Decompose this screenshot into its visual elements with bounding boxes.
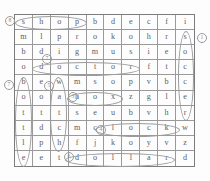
- grid-cell[interactable]: r: [69, 30, 87, 45]
- word-marker-badge: 6: [64, 152, 74, 162]
- grid-cell[interactable]: t: [15, 106, 33, 121]
- grid-cell[interactable]: t: [33, 106, 51, 121]
- grid-cell[interactable]: o: [15, 60, 33, 75]
- word-marker-badge: 8: [5, 16, 15, 26]
- word-search-grid[interactable]: shopbdecfimlprokohrsbdigmusieoodoctorftc…: [14, 14, 195, 167]
- grid-cell[interactable]: m: [15, 30, 33, 45]
- grid-cell[interactable]: x: [104, 91, 122, 106]
- grid-cell[interactable]: m: [87, 45, 105, 60]
- grid-cell[interactable]: b: [15, 75, 33, 90]
- grid-cell[interactable]: c: [176, 75, 194, 90]
- grid-cell[interactable]: l: [104, 121, 122, 136]
- grid-cell[interactable]: u: [104, 106, 122, 121]
- grid-cell[interactable]: e: [122, 15, 140, 30]
- grid-cell[interactable]: i: [51, 45, 69, 60]
- grid-cell[interactable]: s: [176, 30, 194, 45]
- grid-cell[interactable]: a: [51, 91, 69, 106]
- grid-cell[interactable]: c: [140, 121, 158, 136]
- grid-cell[interactable]: i: [140, 45, 158, 60]
- grid-cell[interactable]: g: [69, 45, 87, 60]
- grid-cell[interactable]: o: [104, 75, 122, 90]
- grid-cell[interactable]: v: [158, 136, 176, 151]
- grid-cell[interactable]: y: [140, 136, 158, 151]
- grid-cell[interactable]: p: [33, 136, 51, 151]
- grid-cell[interactable]: j: [87, 136, 105, 151]
- grid-cell[interactable]: v: [140, 75, 158, 90]
- grid-cell[interactable]: o: [33, 91, 51, 106]
- grid-cell[interactable]: s: [69, 106, 87, 121]
- grid-cell[interactable]: e: [15, 151, 33, 166]
- grid-cell[interactable]: r: [176, 106, 194, 121]
- grid-cell[interactable]: z: [176, 136, 194, 151]
- grid-cell[interactable]: h: [51, 136, 69, 151]
- grid-cell[interactable]: p: [69, 15, 87, 30]
- grid-cell[interactable]: a: [140, 151, 158, 166]
- grid-cell[interactable]: o: [122, 136, 140, 151]
- grid-cell[interactable]: e: [33, 151, 51, 166]
- grid-cell[interactable]: o: [15, 91, 33, 106]
- word-search-canvas: shopbdecfimlprokohrsbdigmusieoodoctorftc…: [0, 0, 210, 181]
- grid-cell[interactable]: o: [87, 91, 105, 106]
- grid-cell[interactable]: o: [87, 30, 105, 45]
- grid-cell[interactable]: h: [140, 30, 158, 45]
- grid-cell[interactable]: t: [15, 121, 33, 136]
- grid-cell[interactable]: l: [104, 151, 122, 166]
- grid-cell[interactable]: d: [176, 151, 194, 166]
- grid-cell[interactable]: s: [87, 75, 105, 90]
- grid-cell[interactable]: b: [15, 45, 33, 60]
- grid-cell[interactable]: o: [104, 60, 122, 75]
- grid-cell[interactable]: l: [33, 30, 51, 45]
- grid-cell[interactable]: p: [122, 75, 140, 90]
- grid-cell[interactable]: o: [87, 151, 105, 166]
- grid-cell[interactable]: v: [140, 106, 158, 121]
- grid-cell[interactable]: z: [122, 91, 140, 106]
- grid-cell[interactable]: r: [122, 60, 140, 75]
- grid-cell[interactable]: p: [51, 30, 69, 45]
- grid-cell[interactable]: c: [140, 15, 158, 30]
- grid-cell[interactable]: o: [122, 121, 140, 136]
- grid-cell[interactable]: e: [158, 45, 176, 60]
- grid-cell[interactable]: l: [158, 91, 176, 106]
- grid-cell[interactable]: l: [122, 151, 140, 166]
- grid-cell[interactable]: t: [51, 106, 69, 121]
- grid-cell[interactable]: u: [104, 45, 122, 60]
- grid-cell[interactable]: i: [176, 15, 194, 30]
- word-marker-badge: 1: [197, 33, 207, 43]
- grid-cell[interactable]: m: [69, 75, 87, 90]
- grid-cell[interactable]: t: [158, 60, 176, 75]
- grid-cell[interactable]: b: [158, 75, 176, 90]
- grid-cell[interactable]: d: [33, 121, 51, 136]
- grid-cell[interactable]: b: [122, 106, 140, 121]
- grid-cell[interactable]: h: [158, 106, 176, 121]
- grid-cell[interactable]: o: [122, 30, 140, 45]
- grid-cell[interactable]: h: [33, 15, 51, 30]
- grid-cell[interactable]: o: [51, 15, 69, 30]
- grid-cell[interactable]: t: [87, 60, 105, 75]
- grid-cell[interactable]: e: [176, 91, 194, 106]
- grid-cell[interactable]: c: [51, 121, 69, 136]
- grid-cell[interactable]: k: [104, 30, 122, 45]
- grid-cell[interactable]: m: [69, 121, 87, 136]
- grid-cell[interactable]: o: [176, 45, 194, 60]
- grid-cell[interactable]: l: [15, 136, 33, 151]
- grid-cell[interactable]: g: [140, 91, 158, 106]
- grid-cell[interactable]: w: [176, 121, 194, 136]
- grid-cell[interactable]: b: [87, 15, 105, 30]
- grid-cell[interactable]: f: [140, 60, 158, 75]
- grid-cell[interactable]: s: [122, 45, 140, 60]
- grid-cell[interactable]: d: [104, 15, 122, 30]
- grid-cell[interactable]: c: [176, 60, 194, 75]
- word-marker-badge: 3: [68, 92, 78, 102]
- grid-cell[interactable]: r: [158, 30, 176, 45]
- grid-cell[interactable]: f: [158, 15, 176, 30]
- grid-cell[interactable]: o: [51, 60, 69, 75]
- grid-cell[interactable]: k: [158, 121, 176, 136]
- grid-cell[interactable]: s: [15, 15, 33, 30]
- grid-cell[interactable]: e: [87, 106, 105, 121]
- grid-cell[interactable]: f: [69, 136, 87, 151]
- grid-cell[interactable]: c: [69, 60, 87, 75]
- grid-cell[interactable]: k: [104, 136, 122, 151]
- grid-cell[interactable]: r: [158, 151, 176, 166]
- word-marker-badge: 4: [96, 125, 106, 135]
- word-marker-badge: 5: [44, 81, 54, 91]
